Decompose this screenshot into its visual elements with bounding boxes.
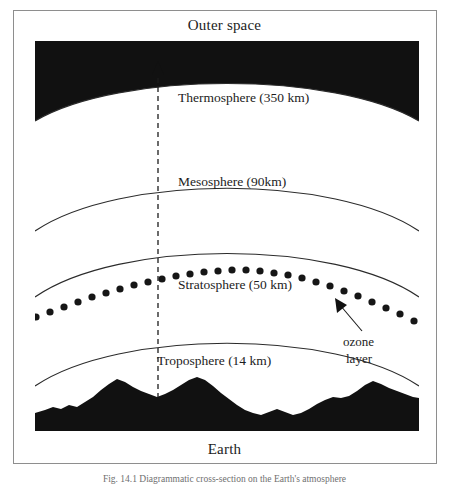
- earth-label: Earth: [0, 441, 449, 458]
- outer-space-region: [35, 41, 419, 121]
- ozone-callout-leader-line: [340, 305, 362, 331]
- stratosphere-label: Stratosphere (50 km): [178, 277, 292, 292]
- atmosphere-diagram: Thermosphere (350 km) Mesosphere (90km) …: [35, 41, 419, 431]
- atmosphere-figure: Outer space: [0, 0, 449, 486]
- mesosphere-boundary-arc: [35, 188, 419, 231]
- figure-caption: Fig. 14.1 Diagrammatic cross-section on …: [0, 473, 449, 486]
- troposphere-label: Troposphere (14 km): [157, 353, 271, 368]
- thermosphere-label: Thermosphere (350 km): [178, 90, 309, 105]
- ozone-callout-line2: layer: [346, 351, 373, 366]
- earth-surface-silhouette: [35, 377, 419, 431]
- ozone-callout-line1: ozone: [343, 334, 374, 349]
- outer-space-label: Outer space: [0, 17, 449, 34]
- ozone-layer-dots: [35, 266, 418, 324]
- mesosphere-label: Mesosphere (90km): [178, 174, 286, 189]
